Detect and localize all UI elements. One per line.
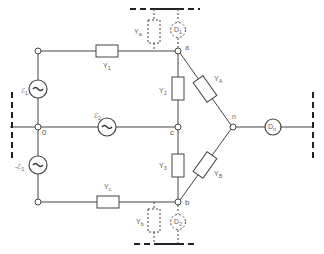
label-d2: D2 (174, 218, 182, 227)
label-yb: Yb (136, 218, 144, 227)
node-top-left (35, 48, 41, 54)
label-node-a: a (185, 44, 189, 51)
label-node-n: n (232, 113, 236, 120)
node-0 (35, 124, 41, 130)
node-c (175, 124, 181, 130)
label-e1-bottom: -ℰ1 (15, 163, 24, 172)
node-b (175, 199, 181, 205)
label-node-0: 0 (42, 128, 47, 137)
label-y2: Y2 (159, 87, 167, 96)
label-node-c: c (170, 128, 174, 137)
circuit-diagram: ℰ1 ℰ2 -ℰ1 0 a c b n Y1 Yc Y2 Y3 YA YB Ya… (0, 0, 324, 254)
resistor-yb (148, 209, 160, 232)
label-y1: Y1 (103, 62, 111, 71)
label-y3: Y3 (159, 162, 167, 171)
label-node-b: b (185, 198, 190, 207)
label-e1-top: ℰ1 (21, 87, 28, 96)
resistor-yc (97, 196, 119, 208)
label-yB: YB (214, 170, 223, 179)
node-n (230, 124, 236, 130)
resistor-y3 (172, 154, 184, 177)
node-a (175, 48, 181, 54)
resistor-y1 (96, 45, 118, 57)
label-e2: ℰ2 (94, 112, 101, 121)
resistor-y2 (172, 77, 184, 100)
label-d1: D1 (174, 26, 182, 35)
label-yA: YA (214, 75, 223, 84)
label-yc: Yc (104, 183, 112, 192)
node-bottom-left (35, 199, 41, 205)
label-ya: Ya (134, 28, 143, 37)
resistor-ya (148, 20, 160, 43)
